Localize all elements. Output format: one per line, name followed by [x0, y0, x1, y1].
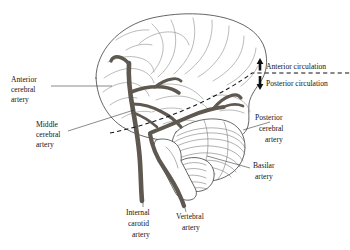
- label-anterior-cerebral-artery: Anterior cerebral artery: [11, 75, 37, 104]
- anterior-circulation-label-group: Anterior circulation: [257, 58, 327, 71]
- brain-arterial-diagram: Anterior circulation Posterior circulati…: [0, 0, 350, 250]
- label-middle-cerebral-artery: Middle cerebral artery: [36, 120, 60, 149]
- posterior-circulation-label-group: Posterior circulation: [257, 76, 328, 90]
- cerebrum-outline: [96, 14, 267, 144]
- down-arrow-shaft: [259, 76, 262, 84]
- middle-cerebral-line-3: artery: [36, 140, 54, 149]
- label-internal-carotid-artery: Internal carotid artery: [126, 208, 150, 239]
- down-arrow-icon: [257, 84, 264, 90]
- anterior-circulation-label: Anterior circulation: [266, 62, 326, 71]
- basilar-line-1: Basilar: [253, 161, 275, 170]
- internal-carotid-line-2: carotid: [128, 219, 149, 228]
- posterior-cerebral-line-1: Posterior: [255, 113, 283, 122]
- internal-carotid-line-3: artery: [132, 230, 150, 239]
- label-posterior-cerebral-artery: Posterior cerebral artery: [255, 113, 283, 144]
- posterior-circulation-label: Posterior circulation: [266, 79, 328, 88]
- figure-root: Anterior circulation Posterior circulati…: [0, 0, 350, 250]
- up-arrow-shaft: [259, 63, 262, 71]
- posterior-cerebral-line-3: artery: [265, 135, 283, 144]
- posterior-cerebral-line-2: cerebral: [259, 124, 283, 133]
- middle-cerebral-line-1: Middle: [36, 120, 59, 129]
- internal-carotid-line-1: Internal: [126, 208, 150, 217]
- middle-cerebral-line-2: cerebral: [36, 130, 60, 139]
- vertebral-line-1: Vertebral: [176, 212, 204, 221]
- cerebrum-group: [96, 14, 267, 144]
- vertebral-line-2: artery: [182, 223, 200, 232]
- label-vertebral-artery: Vertebral artery: [176, 212, 204, 232]
- anterior-cerebral-line-2: cerebral: [11, 85, 35, 94]
- posterior-cerebral-branch: [226, 105, 243, 107]
- label-basilar-artery: Basilar artery: [253, 161, 275, 181]
- anterior-cerebral-line-1: Anterior: [11, 75, 37, 84]
- basilar-line-2: artery: [255, 172, 273, 181]
- anterior-cerebral-line-3: artery: [11, 95, 29, 104]
